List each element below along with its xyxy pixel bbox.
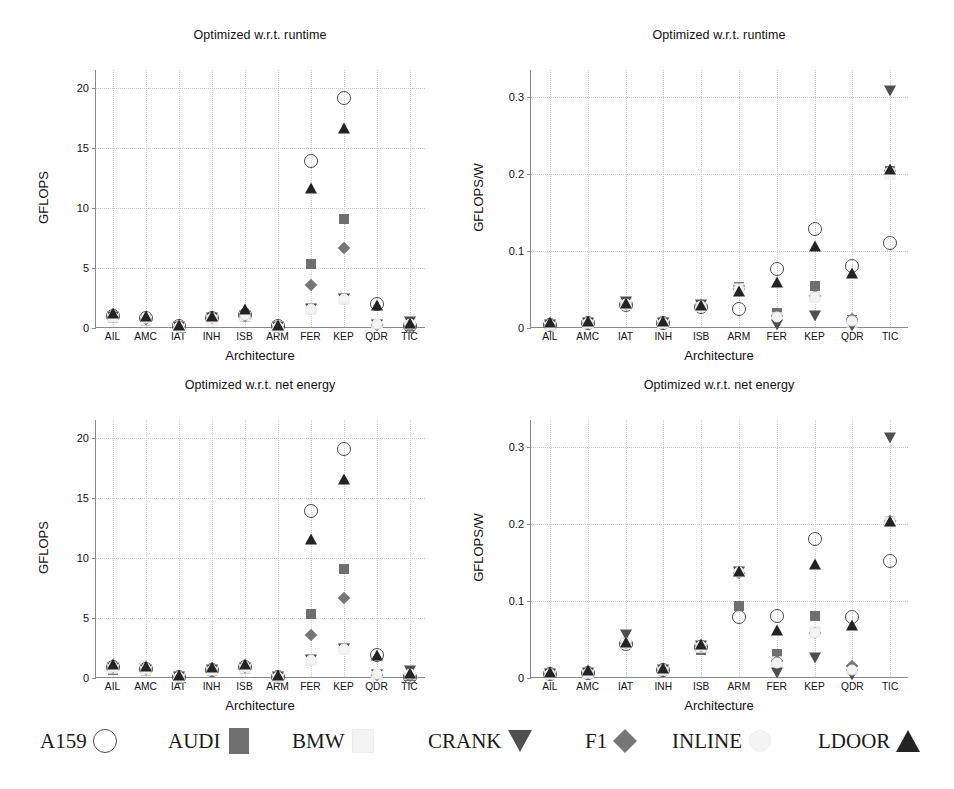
legend-item-f1[interactable]: F1 bbox=[585, 728, 638, 754]
y-tick-label: 0.2 bbox=[509, 518, 531, 530]
gridline-vertical bbox=[739, 420, 740, 677]
gridline-vertical bbox=[701, 420, 702, 677]
gridline-vertical bbox=[890, 420, 891, 677]
y-tick-label: 0.3 bbox=[509, 441, 531, 453]
x-tick-label: KEP bbox=[804, 681, 824, 692]
x-tick-label: FER bbox=[767, 681, 787, 692]
legend-label: INLINE bbox=[672, 729, 742, 754]
legend-marker-tri-down-icon bbox=[508, 730, 532, 752]
x-tick-label: QDR bbox=[841, 681, 864, 692]
x-tick-label: TIC bbox=[882, 681, 898, 692]
legend-item-a159[interactable]: A159 bbox=[40, 728, 118, 754]
legend-item-audi[interactable]: AUDI bbox=[168, 728, 252, 754]
legend-label: A159 bbox=[40, 729, 87, 754]
legend-label: LDOOR bbox=[818, 729, 890, 754]
plot-title: Optimized w.r.t. net energy bbox=[530, 378, 908, 392]
x-tick-label: AIL bbox=[542, 681, 557, 692]
gridline-horizontal bbox=[531, 524, 908, 525]
legend-label: CRANK bbox=[428, 729, 502, 754]
y-axis-label: GFLOPS/W bbox=[471, 493, 486, 603]
x-tick-label: INH bbox=[655, 681, 673, 692]
y-tick-label: 0.1 bbox=[509, 595, 531, 607]
x-tick-label: AMC bbox=[576, 681, 599, 692]
legend-marker-diamond-icon bbox=[613, 729, 637, 753]
x-tick-label: ISB bbox=[693, 681, 709, 692]
legend-swatch-circle-icon bbox=[92, 728, 118, 754]
legend-label: BMW bbox=[292, 729, 345, 754]
legend-item-bmw[interactable]: BMW bbox=[292, 728, 376, 754]
gridline-vertical bbox=[815, 420, 816, 677]
y-tick-label: 0 bbox=[518, 672, 531, 684]
gridline-vertical bbox=[550, 420, 551, 677]
legend-item-crank[interactable]: CRANK bbox=[428, 728, 533, 754]
legend-item-ldoor[interactable]: LDOOR bbox=[818, 728, 921, 754]
x-axis-label: Architecture bbox=[530, 698, 908, 713]
legend-marker-circle-icon bbox=[93, 729, 117, 753]
legend-swatch-tri-up-icon bbox=[895, 728, 921, 754]
legend-swatch-bmw-icon bbox=[350, 728, 376, 754]
legend-item-inline[interactable]: INLINE bbox=[672, 728, 773, 754]
gridline-horizontal bbox=[531, 601, 908, 602]
gridline-horizontal bbox=[531, 447, 908, 448]
legend: A159AUDIBMWCRANKF1INLINELDOOR bbox=[0, 718, 954, 772]
legend-marker-square-icon bbox=[229, 728, 249, 754]
plot-area: AILAMCIATINHISBARMFERKEPQDRTIC00.10.20.3 bbox=[530, 420, 908, 678]
legend-label: F1 bbox=[585, 729, 607, 754]
gridline-vertical bbox=[852, 420, 853, 677]
gridline-vertical bbox=[588, 420, 589, 677]
legend-swatch-inline-icon bbox=[747, 728, 773, 754]
legend-marker-bmw-icon bbox=[352, 729, 374, 753]
x-tick-label: IAT bbox=[618, 681, 633, 692]
legend-marker-tri-up-icon bbox=[896, 730, 920, 752]
legend-label: AUDI bbox=[168, 729, 221, 754]
legend-swatch-tri-down-icon bbox=[507, 728, 533, 754]
legend-swatch-square-icon bbox=[226, 728, 252, 754]
x-tick-label: ARM bbox=[728, 681, 751, 692]
legend-marker-inline-icon bbox=[749, 730, 771, 752]
gridline-vertical bbox=[663, 420, 664, 677]
gridline-vertical bbox=[777, 420, 778, 677]
gridline-vertical bbox=[626, 420, 627, 677]
legend-swatch-diamond-icon bbox=[612, 728, 638, 754]
figure-root: Optimized w.r.t. runtimeAILAMCIATINHISBA… bbox=[0, 0, 954, 789]
plot-panel-bottom-right: Optimized w.r.t. net energyAILAMCIATINHI… bbox=[0, 0, 954, 789]
